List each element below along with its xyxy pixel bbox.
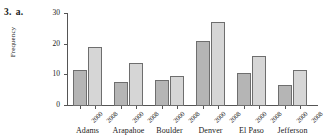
y-tick-mark	[64, 105, 67, 106]
x-tick-year-label: 2008	[187, 110, 201, 124]
y-tick-mark	[64, 44, 67, 45]
x-tick-mark	[136, 106, 137, 109]
x-tick-year-label: 2000	[254, 110, 268, 124]
x-tick-year-label: 2008	[228, 110, 242, 124]
bar	[252, 56, 266, 106]
bar	[237, 73, 251, 106]
figure-container: 3.a. Frequency 0102030 20002008Adams2000…	[0, 0, 324, 139]
x-category-label: Jefferson	[268, 126, 318, 135]
y-tick-label: 20	[42, 40, 60, 48]
x-tick-mark	[95, 106, 96, 109]
x-tick-year-label: 2000	[213, 110, 227, 124]
x-tick-year-label: 2008	[146, 110, 160, 124]
bar	[73, 70, 87, 106]
bar	[129, 63, 143, 106]
x-tick-mark	[244, 106, 245, 109]
bar	[170, 76, 184, 106]
x-tick-year-label: 2008	[269, 110, 283, 124]
x-tick-year-label: 2000	[131, 110, 145, 124]
y-tick-mark	[64, 13, 67, 14]
x-tick-mark	[300, 106, 301, 109]
bar	[278, 85, 292, 106]
x-tick-mark	[162, 106, 163, 109]
bar	[196, 41, 210, 106]
bar	[293, 70, 307, 106]
bar	[211, 22, 225, 106]
y-tick-label: 0	[42, 101, 60, 109]
x-tick-mark	[218, 106, 219, 109]
x-tick-mark	[177, 106, 178, 109]
bar	[114, 82, 128, 106]
bar-chart: Frequency 0102030 20002008Adams20002008A…	[0, 0, 324, 139]
x-tick-year-label: 2008	[105, 110, 119, 124]
bar	[88, 47, 102, 106]
bar	[155, 80, 169, 106]
x-tick-mark	[121, 106, 122, 109]
x-tick-year-label: 2008	[310, 110, 324, 124]
x-tick-mark	[80, 106, 81, 109]
x-tick-mark	[259, 106, 260, 109]
y-tick-label: 10	[42, 70, 60, 78]
x-tick-mark	[203, 106, 204, 109]
x-tick-mark	[285, 106, 286, 109]
y-tick-mark	[64, 74, 67, 75]
x-tick-year-label: 2000	[90, 110, 104, 124]
y-tick-label: 30	[42, 9, 60, 17]
x-tick-year-label: 2000	[295, 110, 309, 124]
x-tick-year-label: 2000	[172, 110, 186, 124]
y-axis-line	[67, 13, 68, 106]
y-axis-label: Frequency	[9, 12, 17, 72]
